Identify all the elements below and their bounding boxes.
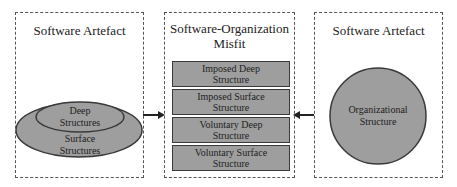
- org-structure-line2: Structure: [338, 116, 418, 128]
- row-line2: Structure: [202, 74, 260, 85]
- arrow-right-icon: [143, 111, 165, 119]
- misfit-row-voluntary-deep: Voluntary DeepStructure: [172, 117, 290, 143]
- row-line1: Voluntary Surface: [195, 147, 267, 158]
- arrow-left-icon: [293, 111, 314, 119]
- row-line2: Structure: [197, 102, 264, 113]
- surface-structures-label: Surface Structures: [50, 133, 110, 157]
- software-artefact-box-right: Software Artefact: [314, 12, 443, 178]
- left-box-title: Software Artefact: [16, 23, 143, 38]
- deep-structures-line1: Deep: [50, 105, 110, 117]
- surface-structures-line1: Surface: [50, 133, 110, 145]
- deep-structures-label: Deep Structures: [50, 105, 110, 129]
- organizational-structure-label: Organizational Structure: [338, 104, 418, 128]
- software-organization-misfit-box: Software-Organization Misfit Imposed Dee…: [164, 12, 295, 178]
- deep-structures-line2: Structures: [50, 117, 110, 129]
- right-box-title: Software Artefact: [315, 23, 442, 38]
- middle-title-line2: Misfit: [165, 36, 294, 51]
- org-structure-line1: Organizational: [338, 104, 418, 116]
- surface-structures-line2: Structures: [50, 145, 110, 157]
- misfit-row-imposed-surface: Imposed SurfaceStructure: [172, 89, 290, 115]
- row-line1: Imposed Deep: [202, 63, 260, 74]
- middle-title-line1: Software-Organization: [165, 21, 294, 36]
- misfit-row-voluntary-surface: Voluntary SurfaceStructure: [172, 145, 290, 171]
- row-line2: Structure: [195, 158, 267, 169]
- row-line1: Voluntary Deep: [200, 119, 263, 130]
- row-line1: Imposed Surface: [197, 91, 264, 102]
- misfit-row-imposed-deep: Imposed DeepStructure: [172, 61, 290, 87]
- row-line2: Structure: [200, 130, 263, 141]
- middle-box-title: Software-Organization Misfit: [165, 21, 294, 51]
